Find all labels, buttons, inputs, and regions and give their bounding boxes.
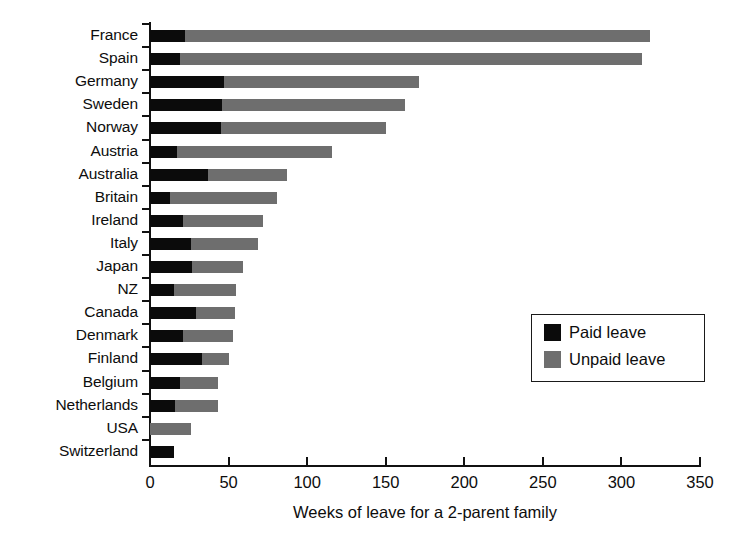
- bar-segment-paid: [150, 446, 174, 458]
- bar-segment-paid: [150, 377, 180, 389]
- bar-segment-unpaid: [175, 400, 217, 412]
- bar-row: [150, 192, 700, 204]
- category-label: Australia: [0, 167, 138, 181]
- bar-segment-paid: [150, 353, 202, 365]
- category-label: France: [0, 28, 138, 42]
- category-label: Ireland: [0, 213, 138, 227]
- legend-label: Paid leave: [569, 323, 646, 342]
- bar-segment-unpaid: [183, 330, 233, 342]
- bar-row: [150, 446, 700, 458]
- bar-row: [150, 146, 700, 158]
- bar-segment-paid: [150, 146, 177, 158]
- bar-row: [150, 284, 700, 296]
- category-label: Canada: [0, 305, 138, 319]
- category-label: Finland: [0, 351, 138, 365]
- x-axis-title: Weeks of leave for a 2-parent family: [150, 503, 700, 522]
- y-axis-tick: [142, 208, 149, 210]
- y-axis-tick: [142, 115, 149, 117]
- bar-row: [150, 400, 700, 412]
- x-axis-tick: [542, 457, 544, 465]
- x-axis-tick: [463, 457, 465, 465]
- x-axis-tick-label: 250: [513, 473, 573, 492]
- x-axis-tick: [149, 457, 151, 465]
- category-label: Britain: [0, 190, 138, 204]
- bar-segment-paid: [150, 192, 170, 204]
- bar-row: [150, 76, 700, 88]
- legend-label: Unpaid leave: [569, 350, 665, 369]
- category-label: Japan: [0, 259, 138, 273]
- bar-segment-unpaid: [202, 353, 229, 365]
- bar-segment-paid: [150, 261, 192, 273]
- bar-segment-unpaid: [208, 169, 287, 181]
- category-label: NZ: [0, 282, 138, 296]
- bar-row: [150, 30, 700, 42]
- bar-segment-paid: [150, 284, 174, 296]
- bar-segment-unpaid: [196, 307, 235, 319]
- bar-segment-unpaid: [180, 53, 642, 65]
- x-axis-tick-label: 100: [277, 473, 337, 492]
- x-axis-tick: [228, 457, 230, 465]
- bar-segment-unpaid: [177, 146, 333, 158]
- legend-swatch-unpaid-icon: [544, 351, 561, 368]
- category-label: Switzerland: [0, 444, 138, 458]
- y-axis-tick: [142, 323, 149, 325]
- bar-row: [150, 238, 700, 250]
- category-label: Denmark: [0, 328, 138, 342]
- category-label: Netherlands: [0, 398, 138, 412]
- category-label: USA: [0, 421, 138, 435]
- x-axis-tick-label: 350: [670, 473, 730, 492]
- legend-entry[interactable]: Unpaid leave: [544, 350, 665, 369]
- bar-segment-unpaid: [222, 99, 404, 111]
- y-axis-tick: [142, 162, 149, 164]
- x-axis-tick-label: 150: [356, 473, 416, 492]
- bar-segment-paid: [150, 238, 191, 250]
- category-label: Italy: [0, 236, 138, 250]
- bar-segment-paid: [150, 122, 221, 134]
- bar-segment-paid: [150, 330, 183, 342]
- y-axis-tick: [142, 23, 149, 25]
- y-axis-tick: [142, 439, 149, 441]
- legend-entry[interactable]: Paid leave: [544, 323, 646, 342]
- bar-segment-unpaid: [180, 377, 218, 389]
- bar-segment-unpaid: [185, 30, 650, 42]
- bar-row: [150, 261, 700, 273]
- bar-segment-paid: [150, 400, 175, 412]
- bar-segment-paid: [150, 307, 196, 319]
- bar-row: [150, 423, 700, 435]
- x-axis-line: [149, 465, 701, 467]
- y-axis-tick: [142, 277, 149, 279]
- bar-row: [150, 122, 700, 134]
- bar-segment-unpaid: [150, 423, 191, 435]
- x-axis-tick: [620, 457, 622, 465]
- bar-segment-unpaid: [191, 238, 259, 250]
- y-axis-tick: [142, 92, 149, 94]
- bar-segment-paid: [150, 169, 208, 181]
- y-axis-tick: [142, 46, 149, 48]
- category-label: Germany: [0, 74, 138, 88]
- x-axis-tick-label: 300: [591, 473, 651, 492]
- y-axis-tick: [142, 346, 149, 348]
- category-label: Sweden: [0, 97, 138, 111]
- y-axis-tick: [142, 139, 149, 141]
- y-axis-tick: [142, 370, 149, 372]
- category-label: Austria: [0, 144, 138, 158]
- bar-segment-unpaid: [170, 192, 277, 204]
- y-axis-tick: [142, 416, 149, 418]
- y-axis-tick: [142, 185, 149, 187]
- x-axis-tick: [306, 457, 308, 465]
- bar-segment-paid: [150, 215, 183, 227]
- plot-area: FranceSpainGermanySwedenNorwayAustriaAus…: [0, 0, 742, 552]
- x-axis-tick: [699, 457, 701, 465]
- y-axis-tick: [142, 69, 149, 71]
- bar-segment-paid: [150, 76, 224, 88]
- bar-segment-unpaid: [192, 261, 242, 273]
- legend-swatch-paid-icon: [544, 324, 561, 341]
- y-axis-tick: [142, 393, 149, 395]
- x-axis-tick: [385, 457, 387, 465]
- category-label: Belgium: [0, 375, 138, 389]
- bar-row: [150, 215, 700, 227]
- bar-row: [150, 99, 700, 111]
- y-axis-tick: [142, 254, 149, 256]
- x-axis-tick-label: 50: [199, 473, 259, 492]
- bar-segment-paid: [150, 99, 222, 111]
